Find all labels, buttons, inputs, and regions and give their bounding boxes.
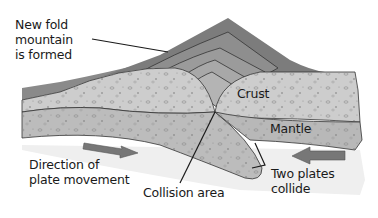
collide-label: Two plates collide bbox=[271, 166, 335, 196]
new-mountain-label: New fold mountain is formed bbox=[15, 17, 73, 62]
mantle-label: Mantle bbox=[270, 121, 311, 136]
crust-label: Crust bbox=[237, 86, 269, 101]
collision-label: Collision area bbox=[143, 185, 224, 200]
fold-mountain-diagram: New fold mountain is formed Crust Mantle… bbox=[0, 0, 378, 218]
direction-label: Direction of plate movement bbox=[29, 157, 129, 187]
mountain-leader-line bbox=[92, 39, 168, 52]
